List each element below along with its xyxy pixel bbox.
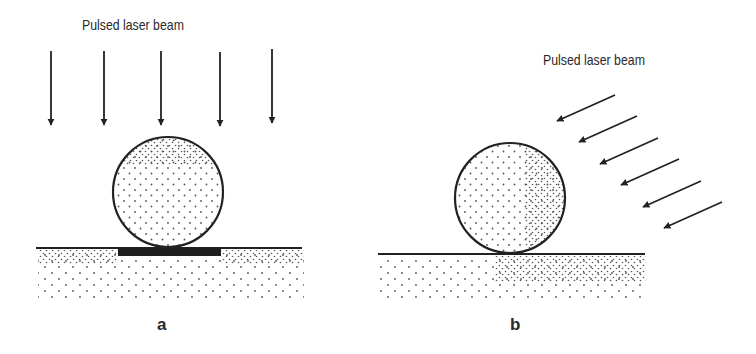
substrate-a: [36, 248, 304, 298]
particle-b: [452, 140, 572, 255]
beam-arrows-vertical: [51, 49, 272, 126]
panel-b: [378, 95, 722, 302]
substrate-b: [378, 254, 646, 302]
beam-label-b: Pulsed laser beam: [543, 51, 645, 68]
beam-arrows-oblique: [557, 95, 722, 228]
panel-label-b: b: [510, 315, 520, 335]
particle-a: [110, 135, 230, 250]
panel-a: [36, 49, 304, 298]
panel-label-a: a: [157, 315, 166, 335]
absorbing-layer: [118, 248, 221, 256]
beam-label-a: Pulsed laser beam: [82, 16, 184, 33]
